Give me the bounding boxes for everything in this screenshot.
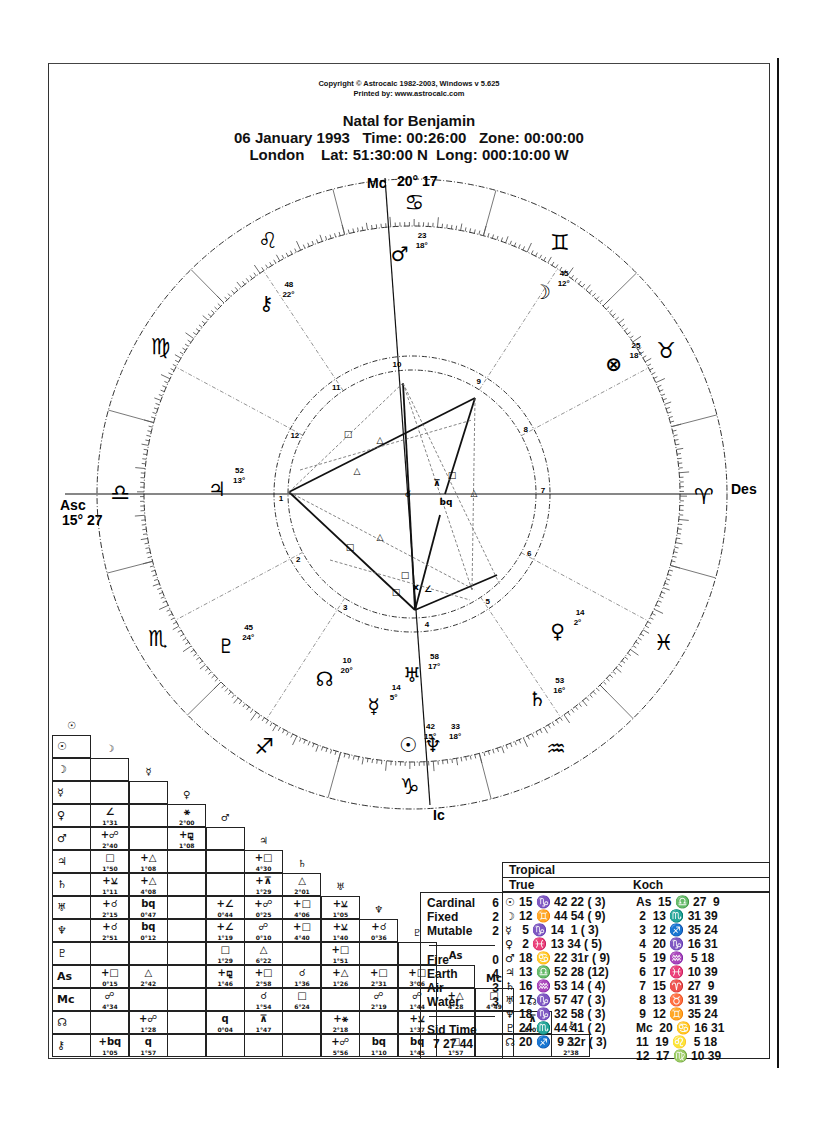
saturn-degree: 16°	[553, 686, 565, 695]
aspect-grid-cell	[321, 988, 360, 1011]
aspect-grid-row-label: Mc	[52, 988, 91, 1011]
aspect-grid-cell: ⚹2°00	[167, 804, 206, 827]
aspect-grid-header: ♂	[206, 812, 245, 823]
neptune-minute: 33	[451, 722, 460, 731]
aspect-marker: ∠	[424, 584, 432, 594]
mars-minute: 23	[418, 231, 427, 240]
aspect-grid-cell	[167, 896, 206, 919]
aspect-grid-cell: +☌2°51	[90, 919, 129, 942]
planet-cusp-positions: ☉15 ♑ 42 22 ( 3)☽12 ♊ 44 54 ( 9)☿ 5 ♑ 14…	[502, 892, 770, 1059]
pluto-icon: ♇	[217, 634, 235, 658]
aspect-grid-cell: +□1°51	[321, 942, 360, 965]
sign-virgo-icon: ♍	[150, 334, 170, 359]
aspect-grid-cell	[206, 873, 245, 896]
house-system: Koch	[633, 878, 663, 892]
aspect-grid-cell	[129, 827, 168, 850]
jupiter-degree: 13°	[233, 476, 245, 485]
aspect-grid-row-label: ♅	[52, 896, 91, 919]
aspect-grid-cell	[167, 1034, 206, 1057]
north-node-minute: 10	[343, 656, 352, 665]
aspect-grid-cell: +⚺1°05	[321, 896, 360, 919]
aspect-grid-cell	[359, 942, 398, 965]
mc-label: Mc	[367, 175, 387, 191]
house-cusp-row: 4 20 ♑ 16 31	[636, 937, 718, 951]
house-cusp-row: Mc 20 ♋ 16 31	[636, 1021, 724, 1035]
chiron-icon: ⚷	[259, 291, 274, 315]
aspect-marker: △	[354, 466, 361, 476]
aspect-grid-cell	[129, 942, 168, 965]
aspect-grid-cell	[90, 781, 129, 804]
sign-libra-icon: ♎	[110, 480, 130, 505]
sign-leo-icon: ♌	[258, 228, 278, 253]
planet-position-row: ♄16 ♒ 53 14 ( 4)	[505, 979, 605, 994]
aspect-marker: ☌	[405, 489, 411, 499]
aspect-grid-cell	[167, 919, 206, 942]
aspect-grid-cell: +□4°30	[244, 850, 283, 873]
aspect-grid-cell: +∠0°44	[206, 896, 245, 919]
aspect-grid-cell	[206, 850, 245, 873]
aspect-grid-cell: ☍2°19	[359, 988, 398, 1011]
aspect-grid-cell	[206, 827, 245, 850]
mc-degree: 20° 17	[397, 173, 438, 189]
aspect-grid-cell: +☍0°25	[244, 896, 283, 919]
planet-position-row: ☿ 5 ♑ 14 1 ( 3)	[505, 923, 599, 938]
aspect-grid-cell: +△1°08	[129, 850, 168, 873]
sign-capricorn-icon: ♑	[400, 774, 420, 799]
ic-label: Ic	[433, 807, 445, 823]
aspect-grid-cell: +⚺1°40	[321, 919, 360, 942]
aspect-grid-cell	[167, 965, 206, 988]
aspect-marker: ⊼	[433, 478, 440, 488]
element-fire: Fire0	[427, 953, 499, 967]
aspect-grid-cell: □6°24	[282, 988, 321, 1011]
aspect-grid-cell: +□0°15	[90, 965, 129, 988]
sun-minute: 42	[426, 722, 435, 731]
aspect-grid-cell: +⚹2°18	[321, 1011, 360, 1034]
aspect-marker: △	[471, 488, 478, 498]
house-cusp-row: 12 17 ♍ 10 39	[636, 1049, 721, 1063]
venus-minute: 14	[576, 608, 585, 617]
aspect-grid-header: ☽	[90, 743, 129, 754]
mode-fixed: Fixed2	[427, 910, 499, 924]
uranus-minute: 58	[430, 652, 439, 661]
aspect-grid-cell: bq1°10	[359, 1034, 398, 1057]
house-number-9: 9	[476, 377, 481, 386]
sidereal-time-label: Sid Time	[427, 1023, 499, 1037]
jupiter-minute: 52	[235, 466, 244, 475]
house-number-10: 10	[393, 360, 402, 369]
house-number-5: 5	[486, 597, 491, 606]
des-label: Des	[731, 481, 757, 497]
aspect-grid-cell: +bq1°05	[90, 1034, 129, 1057]
aspect-grid-cell	[129, 804, 168, 827]
aspect-grid-cell: +□4°40	[282, 919, 321, 942]
sun-icon: ☉	[399, 733, 417, 757]
aspect-grid-cell	[129, 988, 168, 1011]
aspect-grid-header: ♀	[167, 789, 206, 800]
aspect-grid-cell	[90, 758, 129, 781]
pluto-degree: 24°	[242, 633, 254, 642]
aspect-grid-cell	[167, 1011, 206, 1034]
planet-position-row: ♂18 ♋ 22 31r ( 9)	[505, 951, 610, 966]
aspect-grid-cell	[90, 942, 129, 965]
sidereal-time-value: 7 27 44	[433, 1037, 505, 1051]
sign-sagittarius-icon: ♐	[254, 734, 274, 759]
aspect-grid-cell	[167, 942, 206, 965]
aspect-grid-row-label: As	[52, 965, 91, 988]
venus-degree: 2°	[574, 618, 582, 627]
aspect-grid-header: ♅	[321, 881, 360, 892]
aspect-grid-cell	[282, 1011, 321, 1034]
aspect-grid-cell: ⊼1°47	[244, 1011, 283, 1034]
house-number-6: 6	[527, 549, 532, 558]
aspect-grid-cell	[129, 781, 168, 804]
aspect-grid-header: ♆	[359, 904, 398, 915]
house-number-1: 1	[279, 494, 284, 503]
aspect-marker: □	[448, 470, 457, 480]
aspect-grid-cell: ☍4°34	[90, 988, 129, 1011]
aspect-marker: bq	[440, 497, 453, 507]
mars-icon: ♂	[391, 242, 409, 266]
aspect-grid-row-label: ☽	[52, 758, 91, 781]
planet-position-row: ☉15 ♑ 42 22 ( 3)	[505, 895, 605, 910]
house-number-12: 12	[290, 431, 299, 440]
aspect-grid-row-label: ♄	[52, 873, 91, 896]
mercury-minute: 14	[392, 683, 401, 692]
sign-cancer-icon: ♋	[404, 190, 424, 215]
